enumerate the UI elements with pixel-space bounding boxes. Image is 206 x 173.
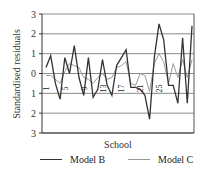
- y-tick-label: 3: [31, 128, 36, 139]
- y-axis-ticks: 3210123: [31, 9, 42, 139]
- y-tick-label: 1: [31, 88, 36, 99]
- legend-swatch-model-c: [128, 159, 150, 160]
- y-tick-label: 2: [31, 28, 36, 39]
- series-line-model-b: [46, 24, 192, 119]
- category-label: 1: [42, 86, 51, 90]
- legend-item-model-c: Model C: [128, 154, 193, 165]
- data-series: [46, 24, 192, 119]
- residuals-chart: 3210123 15913172125 Standardised residua…: [0, 0, 206, 150]
- category-label: 17: [117, 84, 126, 92]
- legend: Model B Model C: [0, 150, 206, 170]
- y-tick-label: 3: [31, 9, 36, 20]
- y-tick-label: 1: [31, 48, 36, 59]
- legend-label-model-b: Model B: [70, 154, 105, 165]
- legend-swatch-model-b: [40, 159, 62, 160]
- y-tick-label: 2: [31, 108, 36, 119]
- category-label: 13: [99, 84, 108, 92]
- category-label: 5: [61, 86, 70, 90]
- category-label: 25: [155, 84, 164, 92]
- legend-label-model-c: Model C: [158, 154, 193, 165]
- y-axis-label: Standardised residuals: [11, 29, 22, 119]
- legend-item-model-b: Model B: [40, 154, 105, 165]
- x-axis-label: School: [104, 139, 132, 150]
- category-labels: 15913172125: [42, 84, 164, 92]
- y-tick-label: 0: [31, 68, 36, 79]
